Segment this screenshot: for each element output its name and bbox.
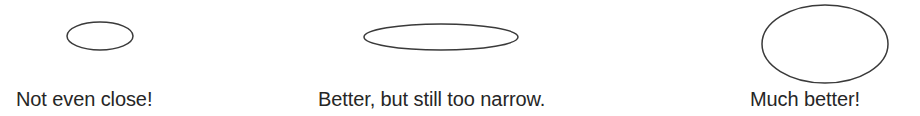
ellipse-outline-3 [762, 5, 888, 83]
ellipse-caption-2: Better, but still too narrow. [318, 89, 545, 109]
ellipse-large-round-icon [640, 0, 920, 90]
ellipse-container-1 [0, 0, 300, 80]
ellipse-container-3 [640, 0, 920, 90]
ellipse-caption-3: Much better! [750, 89, 860, 109]
ellipse-wide-flat-icon [300, 0, 640, 80]
ellipse-small-flat-icon [0, 0, 300, 80]
ellipse-outline-1 [67, 22, 133, 50]
ellipse-container-2 [300, 0, 640, 80]
ellipse-outline-2 [364, 24, 518, 50]
ellipse-caption-1: Not even close! [16, 89, 152, 109]
ellipse-comparison-figure: Not even close! Better, but still too na… [0, 0, 920, 116]
